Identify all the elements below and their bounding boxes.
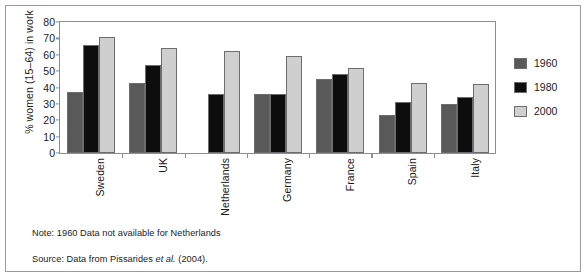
bar-group <box>247 22 309 153</box>
bar-1980 <box>208 94 224 153</box>
bar-2000 <box>224 51 240 153</box>
bar-1960 <box>129 83 145 153</box>
y-tick-label: 50 <box>21 66 60 77</box>
x-label-cell: Germany <box>246 156 308 214</box>
source-tail: (2004). <box>176 254 208 264</box>
bar-1980 <box>83 45 99 153</box>
legend-swatch-icon <box>514 82 527 93</box>
note-text: Note: 1960 Data not available for Nether… <box>32 228 221 238</box>
bar-1980 <box>395 102 411 153</box>
plot-box: 01020304050607080 <box>59 21 496 154</box>
bar-1980 <box>145 65 161 153</box>
y-tick-label: 30 <box>21 99 60 110</box>
bars-container <box>60 22 496 153</box>
bar-2000 <box>473 84 489 153</box>
x-label-cell: Italy <box>434 156 496 214</box>
y-tick-label: 70 <box>21 33 60 44</box>
x-label-cell: France <box>309 156 371 214</box>
x-tick-label: Italy <box>469 158 481 178</box>
bar-1960 <box>254 94 270 153</box>
figure-panel: % women (15–64) in work 0102030405060708… <box>5 5 581 272</box>
source-lead: Source: Data from Pissarides <box>32 254 156 264</box>
bar-group <box>185 22 247 153</box>
bar-1980 <box>270 94 286 153</box>
bar-2000 <box>411 83 427 153</box>
x-tick-label: Germany <box>281 158 293 202</box>
x-label-cell: Spain <box>371 156 433 214</box>
legend-swatch-icon <box>514 58 527 69</box>
bar-group <box>60 22 122 153</box>
x-tick-label: Sweden <box>94 158 106 197</box>
bar-1960 <box>67 92 83 153</box>
legend-swatch-icon <box>514 106 527 117</box>
bar-1960 <box>441 104 457 153</box>
x-tick-label: UK <box>157 158 169 173</box>
x-tick-label: France <box>344 158 356 191</box>
legend-label: 1960 <box>534 57 557 69</box>
chart-area: % women (15–64) in work 0102030405060708… <box>6 6 582 211</box>
x-label-cell: Sweden <box>59 156 121 214</box>
legend: 196019802000 <box>514 53 578 125</box>
y-tick-label: 0 <box>21 148 60 159</box>
bar-1960 <box>316 79 332 153</box>
legend-item-2000[interactable]: 2000 <box>514 101 578 121</box>
bar-group <box>371 22 433 153</box>
source-text: Source: Data from Pissarides et al. (200… <box>32 254 208 264</box>
bar-2000 <box>99 37 115 153</box>
x-tick-label: Spain <box>406 158 418 185</box>
x-tick-label: Netherlands <box>219 158 231 216</box>
bar-group <box>122 22 184 153</box>
bar-2000 <box>161 48 177 153</box>
y-tick-label: 40 <box>21 82 60 93</box>
y-tick-label: 60 <box>21 50 60 61</box>
y-tick-label: 10 <box>21 131 60 142</box>
x-label-cell: UK <box>121 156 183 214</box>
bar-2000 <box>348 68 364 153</box>
legend-label: 1980 <box>534 81 557 93</box>
legend-item-1960[interactable]: 1960 <box>514 53 578 73</box>
bar-1960 <box>379 115 395 153</box>
x-label-cell: Netherlands <box>184 156 246 214</box>
bar-group <box>434 22 496 153</box>
bar-group <box>309 22 371 153</box>
y-tick-label: 20 <box>21 115 60 126</box>
source-italic: et al. <box>156 254 176 264</box>
bar-1980 <box>332 74 348 153</box>
bar-2000 <box>286 56 302 153</box>
x-axis-labels: SwedenUKNetherlandsGermanyFranceSpainIta… <box>59 156 496 214</box>
legend-label: 2000 <box>534 105 557 117</box>
bar-1980 <box>457 97 473 153</box>
y-tick-label: 80 <box>21 17 60 28</box>
legend-item-1980[interactable]: 1980 <box>514 77 578 97</box>
